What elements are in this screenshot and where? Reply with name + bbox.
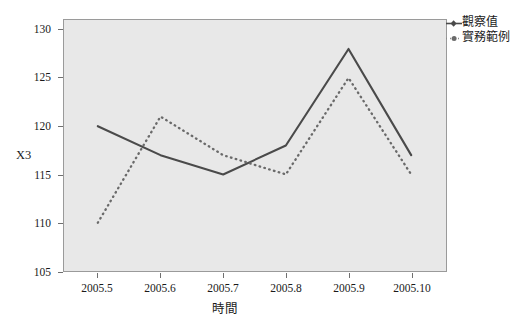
legend-item-observed[interactable]: 觀察值 (446, 15, 532, 30)
x-axis-title: 時間 (0, 302, 450, 316)
series-line-practice (98, 78, 411, 223)
y-tick-label: 120 (11, 120, 51, 132)
y-tick-label: 125 (11, 71, 51, 83)
line-chart: X3 105110115120125130 2005.52005.62005.7… (0, 0, 532, 329)
x-tick-label: 2005.9 (314, 282, 384, 294)
x-tick-label: 2005.8 (251, 282, 321, 294)
legend-label-practice: 實務範例 (462, 31, 510, 44)
x-tick-label: 2005.10 (377, 282, 447, 294)
solid-line-diamond-icon (446, 16, 462, 29)
y-axis-title: X3 (16, 148, 60, 162)
x-tick-label: 2005.7 (188, 282, 258, 294)
x-tick-label: 2005.5 (62, 282, 132, 294)
x-tick-mark (349, 273, 350, 278)
y-tick-label: 110 (11, 217, 51, 229)
x-tick-mark (286, 273, 287, 278)
legend-label-observed: 觀察值 (462, 16, 498, 29)
y-tick-label: 105 (11, 266, 51, 278)
legend-item-practice[interactable]: 實務範例 (446, 30, 532, 45)
x-tick-mark (223, 273, 224, 278)
y-tick-mark (58, 272, 63, 273)
chart-legend: 觀察值 實務範例 (446, 15, 532, 45)
x-tick-mark (160, 273, 161, 278)
plot-area (63, 19, 447, 272)
y-tick-label: 130 (11, 23, 51, 35)
dotted-line-dot-icon (446, 31, 462, 44)
x-tick-mark (97, 273, 98, 278)
x-tick-mark (412, 273, 413, 278)
x-tick-label: 2005.6 (125, 282, 195, 294)
series-line-observed (98, 49, 411, 175)
series-canvas (64, 20, 446, 271)
y-tick-label: 115 (11, 169, 51, 181)
